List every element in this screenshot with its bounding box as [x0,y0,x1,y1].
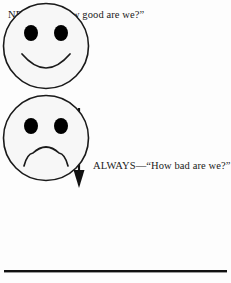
face-outline-circle [4,96,89,181]
frowning-face [0,92,92,184]
rule-line-thin [4,272,227,273]
left-eye [24,118,38,134]
figure-canvas: NEVER—“How good are we?” ALWAYS—“How bad… [0,0,231,283]
bottom-horizontal-rule [4,270,227,273]
smiling-face [0,0,92,92]
label-always: ALWAYS—“How bad are we?” [93,160,231,171]
left-eye [24,25,38,41]
right-eye [54,118,68,134]
right-eye [54,25,68,41]
face-outline-circle [4,4,89,89]
